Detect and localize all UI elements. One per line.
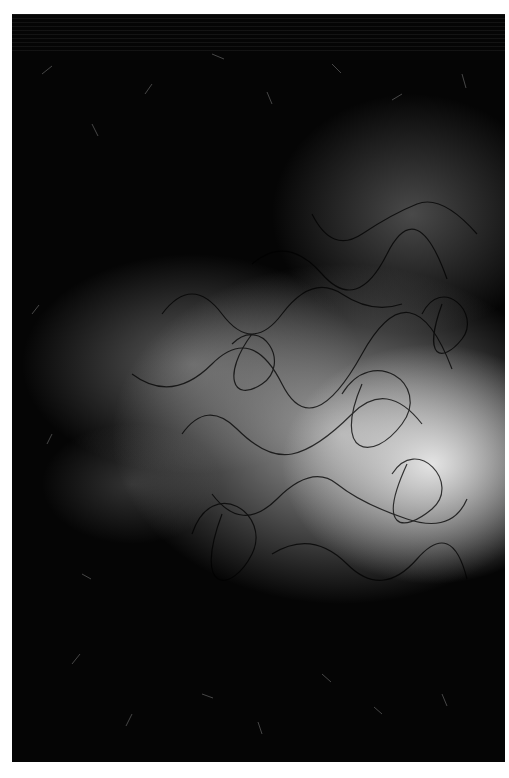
scanline-artifact: [12, 14, 505, 54]
fiber-photograph: [12, 14, 505, 762]
fiber-texture: [12, 14, 505, 762]
